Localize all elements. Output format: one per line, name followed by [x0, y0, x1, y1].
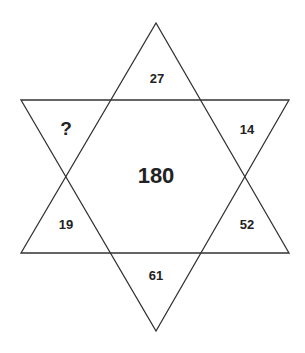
- star-puzzle: 27 14 52 61 19 ? 180: [0, 0, 305, 353]
- center-value: 180: [138, 165, 175, 187]
- point-upper-right-value: 14: [240, 123, 254, 136]
- point-top-value: 27: [150, 72, 164, 85]
- point-upper-left-unknown: ?: [60, 119, 72, 138]
- point-bottom-value: 61: [149, 269, 163, 282]
- point-lower-right-value: 52: [240, 218, 254, 231]
- point-lower-left-value: 19: [59, 218, 73, 231]
